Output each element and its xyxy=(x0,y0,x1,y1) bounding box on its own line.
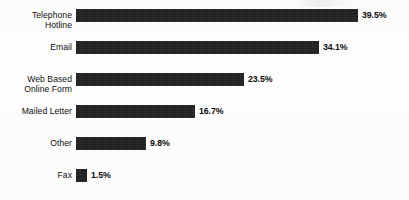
category-label: Other xyxy=(0,138,72,148)
category-label: Mailed Letter xyxy=(0,106,72,116)
bar xyxy=(76,9,358,22)
bar-track xyxy=(76,9,358,22)
bar-track xyxy=(76,73,244,86)
category-label: Web Based Online Form xyxy=(0,74,72,95)
bar xyxy=(76,41,319,54)
bar xyxy=(76,169,87,182)
bar xyxy=(76,137,146,150)
bar-chart: Telephone Hotline 39.5% Email 34.1% Web … xyxy=(0,0,409,200)
value-label: 16.7% xyxy=(199,105,223,118)
bar-track xyxy=(76,137,146,150)
chart-row: Email 34.1% xyxy=(0,41,409,69)
value-label: 23.5% xyxy=(248,73,272,86)
value-label: 34.1% xyxy=(323,41,347,54)
chart-row: Fax 1.5% xyxy=(0,169,409,197)
chart-row: Telephone Hotline 39.5% xyxy=(0,9,409,37)
value-label: 39.5% xyxy=(362,9,386,22)
chart-row: Other 9.8% xyxy=(0,137,409,165)
scan-artifact xyxy=(296,0,356,7)
category-label: Telephone Hotline xyxy=(0,10,72,31)
chart-row: Mailed Letter 16.7% xyxy=(0,105,409,133)
chart-row: Web Based Online Form 23.5% xyxy=(0,73,409,101)
bar xyxy=(76,73,244,86)
value-label: 1.5% xyxy=(91,169,111,182)
category-label: Fax xyxy=(0,170,72,180)
category-label: Email xyxy=(0,42,72,52)
bar-track xyxy=(76,169,87,182)
bar-track xyxy=(76,41,319,54)
value-label: 9.8% xyxy=(150,137,170,150)
bar xyxy=(76,105,195,118)
bar-track xyxy=(76,105,195,118)
